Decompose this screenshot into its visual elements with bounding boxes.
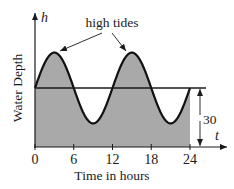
y-axis-symbol: h [41, 10, 48, 25]
water-depth-area [35, 53, 190, 147]
x-tick-label: 18 [144, 152, 158, 167]
tide-chart: h t 06121824 Time in hours Water Depth h… [0, 0, 234, 189]
x-tick-label: 12 [106, 152, 120, 167]
high-tide-arrow-right [112, 33, 126, 51]
high-tide-arrow-left [60, 33, 102, 51]
midline-value-label: 30 [203, 112, 217, 127]
x-tick-label: 0 [32, 152, 39, 167]
high-tides-annotation: high tides [86, 15, 139, 30]
x-axis-label: Time in hours [74, 168, 149, 183]
x-tick-label: 24 [183, 152, 197, 167]
x-axis-symbol: t [215, 128, 220, 143]
x-tick-label: 6 [70, 152, 77, 167]
y-axis-label: Water Depth [10, 54, 25, 123]
